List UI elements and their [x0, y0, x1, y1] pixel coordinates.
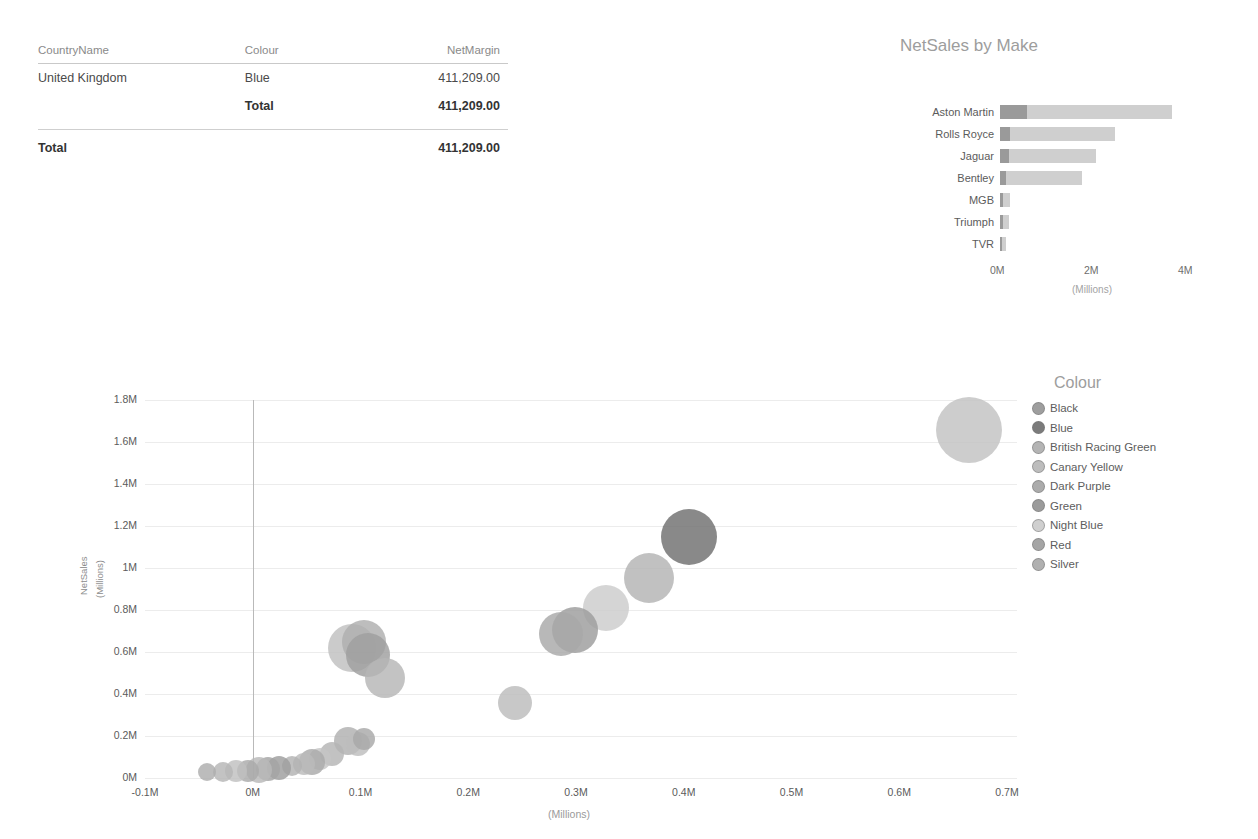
zero-axis-line: [253, 400, 254, 778]
table-row-subtotal[interactable]: Total 411,209.00: [38, 92, 508, 120]
bar-segment[interactable]: [1006, 171, 1082, 185]
matrix-table: CountryName Colour NetMargin United King…: [38, 44, 508, 162]
legend-colour-dot-icon: [1032, 460, 1045, 473]
bubble-point[interactable]: [936, 397, 1002, 463]
legend-colour-dot-icon: [1032, 519, 1045, 532]
y-tick-label: 1.4M: [93, 477, 137, 489]
cell-netmargin: 411,209.00: [386, 64, 508, 93]
legend-item[interactable]: Blue: [1032, 421, 1252, 435]
legend-item-label: British Racing Green: [1050, 441, 1156, 453]
gridline: [145, 694, 1017, 695]
legend-colour-dot-icon: [1032, 499, 1045, 512]
bubble-point[interactable]: [624, 553, 674, 603]
gridline: [145, 526, 1017, 527]
bar-segment[interactable]: [1009, 149, 1096, 163]
bar-row[interactable]: Rolls Royce: [900, 126, 1140, 142]
legend-item[interactable]: Canary Yellow: [1032, 460, 1252, 474]
bar-segment[interactable]: [1010, 127, 1115, 141]
row-spacer: [38, 120, 508, 130]
legend-item[interactable]: Red: [1032, 538, 1252, 552]
legend-item-label: Blue: [1050, 422, 1073, 434]
legend-colour-dot-icon: [1032, 538, 1045, 551]
x-tick-label: 0.6M: [869, 786, 929, 798]
x-tick-label: 0.2M: [438, 786, 498, 798]
gridline: [145, 568, 1017, 569]
bar-category-label: TVR: [898, 236, 994, 252]
netsales-by-make-bar-chart[interactable]: NetSales by Make Aston MartinRolls Royce…: [900, 36, 1240, 291]
bar-row[interactable]: MGB: [900, 192, 1140, 208]
bar-segment[interactable]: [1003, 215, 1010, 229]
table-row-grandtotal[interactable]: Total 411,209.00: [38, 130, 508, 163]
gridline: [145, 400, 1017, 401]
legend-colour-dot-icon: [1032, 558, 1045, 571]
y-axis-title-millions: (Millions): [94, 560, 105, 598]
x-tick-label: 0M: [223, 786, 283, 798]
cell-subtotal-netmargin: 411,209.00: [386, 92, 508, 120]
gridline: [145, 442, 1017, 443]
bar-row[interactable]: Bentley: [900, 170, 1140, 186]
bar-segment[interactable]: [1000, 105, 1027, 119]
column-header-countryname[interactable]: CountryName: [38, 44, 245, 64]
bar-track: [1000, 127, 1115, 141]
legend-item[interactable]: Night Blue: [1032, 518, 1252, 532]
bar-segment[interactable]: [1000, 127, 1010, 141]
bubble-point[interactable]: [661, 509, 717, 565]
column-header-netmargin[interactable]: NetMargin: [386, 44, 508, 64]
table-row[interactable]: United Kingdom Blue 411,209.00: [38, 64, 508, 93]
legend-items-container: BlackBlueBritish Racing GreenCanary Yell…: [1032, 401, 1252, 571]
bar-category-label: Triumph: [898, 214, 994, 230]
x-tick-label: 0.4M: [654, 786, 714, 798]
bar-segment[interactable]: [1000, 149, 1009, 163]
bar-x-tick-label: 0M: [990, 264, 1005, 276]
bar-chart-title: NetSales by Make: [900, 36, 1038, 56]
legend-item[interactable]: Silver: [1032, 557, 1252, 571]
x-axis-units-label: (Millions): [548, 808, 590, 820]
gridline: [145, 736, 1017, 737]
bar-axis-units-label: (Millions): [1072, 284, 1112, 295]
bar-segment[interactable]: [1027, 105, 1171, 119]
legend-item[interactable]: Green: [1032, 499, 1252, 513]
colour-legend[interactable]: Colour BlackBlueBritish Racing GreenCana…: [1032, 374, 1252, 577]
bar-category-label: MGB: [898, 192, 994, 208]
x-tick-label: 0.1M: [331, 786, 391, 798]
gridline: [145, 484, 1017, 485]
y-tick-label: 0M: [93, 771, 137, 783]
netmargin-matrix-table[interactable]: CountryName Colour NetMargin United King…: [38, 44, 508, 162]
legend-item[interactable]: British Racing Green: [1032, 440, 1252, 454]
bar-category-label: Bentley: [898, 170, 994, 186]
bar-segment[interactable]: [1002, 237, 1005, 251]
y-tick-label: 1.6M: [93, 435, 137, 447]
bubble-point[interactable]: [353, 728, 375, 750]
y-tick-label: 0.8M: [93, 603, 137, 615]
cell-subtotal-label: Total: [245, 92, 386, 120]
bar-row[interactable]: Triumph: [900, 214, 1140, 230]
legend-item-label: Night Blue: [1050, 519, 1103, 531]
bar-track: [1000, 237, 1006, 251]
legend-item-label: Silver: [1050, 558, 1079, 570]
legend-colour-dot-icon: [1032, 441, 1045, 454]
bubble-point[interactable]: [365, 658, 405, 698]
bar-row[interactable]: TVR: [900, 236, 1140, 252]
legend-item[interactable]: Dark Purple: [1032, 479, 1252, 493]
legend-item[interactable]: Black: [1032, 401, 1252, 415]
cell-grandtotal-blank: [245, 130, 386, 163]
bubble-point[interactable]: [498, 686, 532, 720]
x-tick-label: 0.3M: [546, 786, 606, 798]
bar-category-label: Jaguar: [898, 148, 994, 164]
cell-country: United Kingdom: [38, 64, 245, 93]
cell-grandtotal-label: Total: [38, 130, 245, 163]
bar-row[interactable]: Aston Martin: [900, 104, 1140, 120]
legend-item-label: Black: [1050, 402, 1078, 414]
bubble-point[interactable]: [539, 612, 583, 656]
bar-row[interactable]: Jaguar: [900, 148, 1140, 164]
column-header-colour[interactable]: Colour: [245, 44, 386, 64]
bar-x-tick-label: 2M: [1084, 264, 1099, 276]
y-axis-title-netsales: NetSales: [78, 556, 89, 595]
x-tick-label: 0.5M: [762, 786, 822, 798]
legend-title: Colour: [1054, 374, 1252, 392]
legend-colour-dot-icon: [1032, 402, 1045, 415]
bar-segment[interactable]: [1003, 193, 1010, 207]
cell-country-empty: [38, 92, 245, 120]
bar-track: [1000, 193, 1010, 207]
x-tick-label: 0.7M: [977, 786, 1037, 798]
